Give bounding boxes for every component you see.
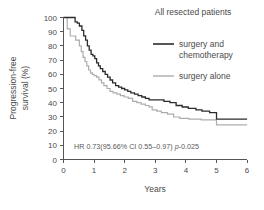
- stat-annotation-main: HR 0.73(95.66% CI 0.55–0.97): [74, 142, 175, 151]
- y-tick-label-0: 0: [53, 156, 58, 165]
- y-tick-label-10: 10: [48, 141, 57, 150]
- chart-canvas: 100 90 80 70 60 50 40 30 20 10 0 0 1 2 3…: [0, 0, 264, 210]
- series-surgery-chemo-line: [64, 18, 248, 120]
- legend: surgery and chemotherapy surgery alone: [153, 39, 234, 81]
- y-tick-label-20: 20: [48, 127, 57, 136]
- x-tick-label-3: 3: [153, 166, 158, 175]
- panel-title: All resected patients: [155, 7, 232, 17]
- legend-label-surgery-chemo-line2: chemotherapy: [179, 50, 234, 60]
- y-tick-label-80: 80: [48, 42, 57, 51]
- x-tick-label-1: 1: [92, 166, 97, 175]
- legend-label-surgery-alone: surgery alone: [179, 71, 231, 81]
- x-tick-label-4: 4: [184, 166, 189, 175]
- x-tick-group: 0 1 2 3 4 5 6: [61, 160, 250, 176]
- y-tick-group: 100 90 80 70 60 50 40 30 20 10 0: [44, 14, 64, 165]
- x-tick-label-2: 2: [122, 166, 127, 175]
- y-tick-label-30: 30: [48, 113, 57, 122]
- legend-label-surgery-chemo-line1: surgery and: [179, 39, 224, 49]
- x-axis-title: Years: [144, 184, 165, 194]
- y-tick-label-70: 70: [48, 56, 57, 65]
- x-tick-label-6: 6: [245, 166, 250, 175]
- y-tick-label-50: 50: [48, 85, 57, 94]
- y-axis-title-line1: Progression-free: [8, 56, 18, 119]
- y-tick-label-100: 100: [44, 14, 58, 23]
- y-tick-label-60: 60: [48, 70, 57, 79]
- y-tick-label-40: 40: [48, 99, 57, 108]
- y-tick-label-90: 90: [48, 28, 57, 37]
- y-axis-title-line2: survival (%): [20, 66, 30, 111]
- stat-annotation-pvalue: -0.025: [179, 142, 199, 151]
- kaplan-meier-figure: 100 90 80 70 60 50 40 30 20 10 0 0 1 2 3…: [0, 0, 264, 210]
- stat-annotation: HR 0.73(95.66% CI 0.55–0.97) p-0.025: [74, 142, 199, 151]
- x-tick-label-0: 0: [61, 166, 66, 175]
- x-tick-label-5: 5: [214, 166, 219, 175]
